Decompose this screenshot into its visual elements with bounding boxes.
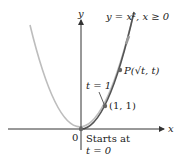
origin-label: 0 (72, 132, 78, 143)
x-axis-label: x (168, 123, 174, 134)
curve-equation-label: y = x², x ≥ 0 (105, 11, 170, 22)
parametric-parabola-diagram: y x y = x², x ≥ 0 P(√t, t) t = 1 (1, 1) … (0, 0, 182, 162)
point-one-one-label: (1, 1) (109, 100, 136, 111)
point-p-label: P(√t, t) (123, 65, 159, 76)
point-p (118, 68, 122, 72)
origin-point (79, 127, 83, 131)
diagram-canvas: y x y = x², x ≥ 0 P(√t, t) t = 1 (1, 1) … (0, 0, 182, 162)
y-axis-label: y (77, 8, 84, 19)
direction-arrow-icon (126, 36, 129, 44)
start-label-line1: Starts at (86, 133, 130, 144)
start-label-line2: t = 0 (86, 145, 112, 156)
t-one-leader (99, 92, 104, 104)
t-one-label: t = 1 (86, 80, 111, 91)
point-one-one (103, 104, 107, 108)
